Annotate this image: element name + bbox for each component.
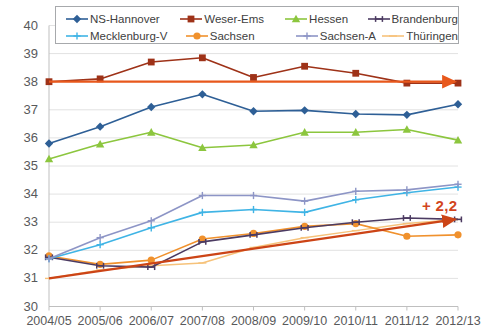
y-axis-tick-32: 32 bbox=[8, 243, 38, 256]
annotation-delta-label: + 2,2 bbox=[422, 197, 457, 214]
data-point bbox=[188, 15, 195, 22]
y-axis-tick-35: 35 bbox=[8, 159, 38, 172]
trend-rising-thueringen bbox=[49, 219, 455, 278]
data-point bbox=[455, 217, 462, 223]
legend-item-sachsen-a[interactable]: Sachsen-A bbox=[294, 27, 380, 44]
data-point bbox=[352, 70, 359, 77]
data-point bbox=[352, 196, 359, 203]
data-point bbox=[73, 32, 80, 39]
series-ns-hannover bbox=[45, 90, 462, 148]
data-point bbox=[199, 209, 206, 216]
y-axis-tick-34: 34 bbox=[8, 187, 38, 200]
legend-row-2: Mecklenburg-V Sachsen Sachsen-A Thüringe… bbox=[56, 27, 458, 44]
legend-item-ns-hannover[interactable]: NS-Hannover bbox=[64, 10, 178, 27]
y-axis-tick-39: 39 bbox=[8, 47, 38, 60]
data-point bbox=[301, 63, 308, 70]
data-point bbox=[455, 80, 462, 87]
data-point bbox=[250, 206, 257, 213]
y-axis-tick-40: 40 bbox=[8, 19, 38, 32]
legend-item-sachsen[interactable]: Sachsen bbox=[184, 27, 294, 44]
x-axis-tick-2006/07: 2006/07 bbox=[125, 315, 177, 328]
series-hessen bbox=[45, 125, 462, 162]
data-point bbox=[250, 74, 257, 81]
legend-label-sachsen: Sachsen bbox=[210, 29, 255, 43]
data-point bbox=[96, 122, 104, 130]
data-point bbox=[148, 217, 155, 224]
data-point bbox=[301, 198, 308, 205]
legend-item-thueringen[interactable]: Thüringen bbox=[380, 27, 458, 44]
y-axis-tick-37: 37 bbox=[8, 103, 38, 116]
data-point bbox=[147, 128, 155, 136]
y-axis-tick-36: 36 bbox=[8, 131, 38, 144]
data-point bbox=[97, 241, 104, 248]
data-point bbox=[250, 192, 257, 199]
y-axis-tick-30: 30 bbox=[8, 300, 38, 313]
x-axis-tick-2004/05: 2004/05 bbox=[23, 315, 75, 328]
legend-label-hessen: Hessen bbox=[309, 12, 348, 26]
legend-swatch-weser-ems bbox=[178, 12, 204, 26]
data-point bbox=[300, 106, 308, 114]
legend-label-brandenburg: Brandenburg bbox=[392, 12, 459, 26]
legend-label-mecklenburg-v: Mecklenburg-V bbox=[90, 29, 167, 43]
legend-swatch-sachsen bbox=[184, 29, 210, 43]
chart-legend: NS-Hannover Weser-Ems Hessen Brandenburg… bbox=[55, 6, 459, 44]
data-point bbox=[97, 261, 104, 268]
x-axis-tick-2009/10: 2009/10 bbox=[279, 315, 331, 328]
data-point bbox=[193, 32, 200, 39]
legend-swatch-mecklenburg-v bbox=[64, 29, 90, 43]
data-point bbox=[148, 59, 155, 66]
legend-swatch-thueringen bbox=[380, 29, 406, 43]
x-axis-tick-2012/13: 2012/13 bbox=[432, 315, 484, 328]
data-point bbox=[301, 209, 308, 216]
data-point bbox=[45, 139, 53, 147]
legend-label-ns-hannover: NS-Hannover bbox=[90, 12, 160, 26]
data-point bbox=[199, 54, 206, 61]
data-point bbox=[73, 14, 81, 22]
y-axis-tick-33: 33 bbox=[8, 215, 38, 228]
y-axis-tick-31: 31 bbox=[8, 271, 38, 284]
data-point bbox=[454, 231, 461, 238]
legend-row-1: NS-Hannover Weser-Ems Hessen Brandenburg bbox=[56, 10, 458, 27]
data-point bbox=[198, 90, 206, 98]
legend-label-thueringen: Thüringen bbox=[406, 29, 458, 43]
legend-label-weser-ems: Weser-Ems bbox=[204, 12, 264, 26]
x-axis-tick-2005/06: 2005/06 bbox=[74, 315, 126, 328]
data-point bbox=[199, 192, 206, 199]
legend-item-hessen[interactable]: Hessen bbox=[283, 10, 365, 27]
legend-swatch-brandenburg bbox=[366, 12, 392, 26]
data-point bbox=[403, 233, 410, 240]
legend-item-brandenburg[interactable]: Brandenburg bbox=[366, 10, 459, 27]
x-axis-tick-2010/11: 2010/11 bbox=[330, 315, 382, 328]
legend-item-mecklenburg-v[interactable]: Mecklenburg-V bbox=[64, 27, 184, 44]
legend-item-weser-ems[interactable]: Weser-Ems bbox=[178, 10, 283, 27]
data-point bbox=[249, 107, 257, 115]
data-point bbox=[454, 100, 462, 108]
data-point bbox=[403, 111, 411, 119]
x-axis-tick-2011/12: 2011/12 bbox=[381, 315, 433, 328]
data-point bbox=[148, 224, 155, 231]
x-axis-tick-2008/09: 2008/09 bbox=[228, 315, 280, 328]
legend-label-sachsen-a: Sachsen-A bbox=[320, 29, 376, 43]
legend-swatch-hessen bbox=[283, 12, 309, 26]
data-point bbox=[403, 215, 410, 221]
legend-swatch-sachsen-a bbox=[294, 29, 320, 43]
x-axis-tick-2007/08: 2007/08 bbox=[176, 315, 228, 328]
data-point bbox=[375, 16, 382, 22]
y-axis-tick-38: 38 bbox=[8, 75, 38, 88]
data-point bbox=[352, 220, 359, 227]
legend-swatch-ns-hannover bbox=[64, 12, 90, 26]
data-point bbox=[352, 110, 360, 118]
data-point bbox=[303, 32, 310, 39]
data-point bbox=[97, 234, 104, 241]
